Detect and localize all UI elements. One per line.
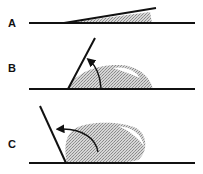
- contact-angle-diagram: A B C: [0, 0, 203, 174]
- tangent-line-c: [40, 106, 66, 163]
- panel-b: B: [8, 38, 195, 89]
- drop-c: [65, 123, 145, 163]
- panel-label-a: A: [8, 17, 16, 29]
- panel-c: C: [8, 106, 195, 163]
- panel-a: A: [8, 8, 195, 29]
- panel-label-b: B: [8, 62, 16, 74]
- drop-b: [68, 65, 153, 89]
- panel-label-c: C: [8, 138, 16, 150]
